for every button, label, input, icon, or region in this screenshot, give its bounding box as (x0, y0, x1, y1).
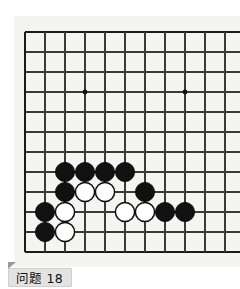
star-point (183, 90, 188, 95)
white-stone (55, 222, 74, 241)
figure-caption: 问题 18 (8, 268, 72, 287)
black-stone (175, 202, 194, 221)
black-stone (55, 182, 74, 201)
go-board-svg (14, 16, 240, 267)
black-stone (95, 162, 114, 181)
go-problem-figure: 问题 18 (0, 0, 240, 289)
black-stone (35, 202, 54, 221)
black-stone (35, 222, 54, 241)
black-stone (135, 182, 154, 201)
white-stone (75, 182, 94, 201)
black-stone (115, 162, 134, 181)
black-stone (55, 162, 74, 181)
go-board-panel (14, 16, 240, 267)
white-stone (115, 202, 134, 221)
white-stone (95, 182, 114, 201)
white-stone (55, 202, 74, 221)
star-point (83, 90, 88, 95)
white-stone (135, 202, 154, 221)
black-stone (155, 202, 174, 221)
figure-caption-label: 问题 18 (16, 272, 63, 285)
black-stone (75, 162, 94, 181)
